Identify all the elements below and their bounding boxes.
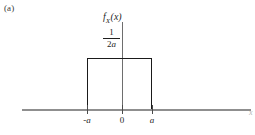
xtick-mark-neg-a bbox=[87, 105, 88, 114]
fraction-denominator-variable: a bbox=[112, 39, 117, 49]
xtick-mark-pos-a bbox=[152, 105, 153, 114]
panel-label: (a) bbox=[4, 3, 14, 14]
plateau-value-fraction: 1 2a bbox=[103, 27, 120, 49]
uniform-pdf-rectangle bbox=[87, 58, 152, 109]
x-axis-label: x bbox=[249, 108, 253, 118]
xtick-label-neg-a: -a bbox=[78, 115, 96, 126]
fraction-denominator: 2a bbox=[103, 39, 120, 49]
y-axis-label-subscript: X bbox=[106, 17, 110, 25]
figure-panel: (a) fX(x) 1 2a -a 0 a x bbox=[0, 0, 255, 135]
y-axis-label-argument: (x) bbox=[111, 11, 122, 22]
y-axis-label: fX(x) bbox=[103, 11, 122, 27]
x-axis-line bbox=[22, 109, 251, 111]
xtick-mark-zero bbox=[122, 105, 123, 114]
xtick-label-pos-a: a bbox=[145, 115, 159, 126]
xtick-label-zero: 0 bbox=[114, 115, 130, 126]
fraction-numerator: 1 bbox=[103, 27, 120, 37]
